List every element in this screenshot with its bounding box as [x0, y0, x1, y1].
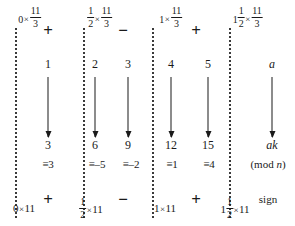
fraction-denominator: 3 — [171, 18, 183, 29]
congruence-col-0: ≡3 — [42, 159, 54, 170]
down-arrow-col-0 — [48, 77, 49, 137]
result-col-5: ak — [266, 139, 277, 151]
fraction-col-5: 113 — [251, 6, 263, 29]
fraction-numerator: 11 — [30, 6, 42, 18]
fraction-numerator: 11 — [101, 6, 113, 18]
k-value-col-5: a — [269, 58, 275, 70]
fraction-denominator: 2 — [79, 209, 86, 220]
fraction-denominator: 3 — [251, 18, 263, 29]
operator-top-3: + — [191, 22, 201, 39]
times-icon: × — [245, 14, 251, 24]
operator-top-2: − — [118, 22, 128, 39]
fraction-numerator: 1 — [87, 6, 94, 18]
coefficient-fraction-col-5: 12 — [238, 6, 245, 29]
congruence-col-1: ≡–5 — [88, 159, 105, 170]
bottom-product-col-3: 11 — [165, 202, 176, 214]
dotted-separator-3 — [152, 28, 156, 218]
fraction-denominator: 2 — [226, 209, 233, 220]
down-arrow-col-2 — [128, 77, 129, 137]
k-value-col-1: 2 — [92, 58, 98, 70]
dotted-separator-1 — [15, 28, 19, 218]
result-col-1: 6 — [92, 139, 98, 151]
operator-bottom-2: − — [118, 191, 128, 208]
congruence-col-2: ≡–2 — [122, 159, 139, 170]
fraction-col-0: 113 — [30, 6, 42, 29]
bottom-expression-col-1: 12×11 — [79, 197, 103, 220]
bottom-coefficient-fraction-col-5: 12 — [226, 197, 233, 220]
fraction-col-3: 113 — [171, 6, 183, 29]
result-col-4: 15 — [202, 139, 214, 151]
modulus-label: (mod n) — [250, 159, 285, 170]
bottom-coefficient-col-3: 1 — [154, 202, 160, 214]
dotted-separator-2 — [83, 28, 87, 218]
fraction-denominator: 2 — [238, 18, 245, 29]
k-value-col-3: 4 — [168, 58, 174, 70]
bottom-expression-col-3: 1×11 — [154, 203, 176, 214]
fraction-numerator: 1 — [226, 197, 233, 209]
times-icon: × — [164, 14, 170, 24]
fraction-numerator: 11 — [251, 6, 263, 18]
top-expression-col-1: 12×113 — [87, 6, 113, 29]
operator-bottom-3: + — [191, 191, 201, 208]
result-col-2: 9 — [125, 139, 131, 151]
congruence-col-4: ≡4 — [203, 159, 215, 170]
bottom-expression-col-5: 112×11 — [220, 197, 249, 220]
sign-label: sign — [259, 194, 277, 205]
bottom-coefficient-fraction-col-1: 12 — [79, 197, 86, 220]
dotted-separator-4 — [229, 28, 233, 218]
down-arrow-col-1 — [95, 77, 96, 137]
down-arrow-col-4 — [208, 77, 209, 137]
result-col-3: 12 — [165, 139, 177, 151]
times-icon: × — [94, 14, 100, 24]
fraction-numerator: 1 — [238, 6, 245, 18]
fraction-col-1: 113 — [101, 6, 113, 29]
top-expression-col-5: 112×113 — [233, 6, 264, 29]
fraction-denominator: 3 — [30, 18, 42, 29]
modulus-variable: n — [276, 158, 282, 170]
k-value-col-2: 3 — [125, 58, 131, 70]
result-col-0: 3 — [45, 139, 51, 151]
k-value-col-0: 1 — [45, 58, 51, 70]
down-arrow-col-3 — [171, 77, 172, 137]
bottom-product-col-1: 11 — [92, 203, 103, 215]
fraction-numerator: 1 — [79, 197, 86, 209]
fraction-numerator: 11 — [171, 6, 183, 18]
coefficient-fraction-col-1: 12 — [87, 6, 94, 29]
top-expression-col-3: 1×113 — [159, 6, 183, 29]
operator-bottom-1: + — [43, 191, 53, 208]
fraction-denominator: 2 — [87, 18, 94, 29]
congruence-diagram: 0×113 + 12×113 − 1×113 + 112×113 1 2 3 4… — [0, 0, 295, 226]
congruence-col-3: ≡1 — [166, 159, 178, 170]
fraction-denominator: 3 — [101, 18, 113, 29]
down-arrow-col-5 — [272, 77, 273, 137]
bottom-product-col-0: 11 — [24, 202, 35, 214]
k-value-col-4: 5 — [205, 58, 211, 70]
bottom-coefficient-col-0: 0 — [13, 202, 19, 214]
bottom-product-col-5: 11 — [239, 203, 250, 215]
times-icon: × — [23, 14, 29, 24]
operator-top-1: + — [43, 22, 53, 39]
bottom-expression-col-0: 0×11 — [13, 203, 35, 214]
top-expression-col-0: 0×113 — [18, 6, 42, 29]
